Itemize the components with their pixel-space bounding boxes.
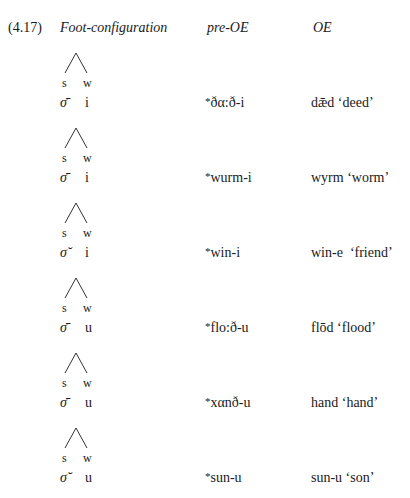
ending-vowel: i — [85, 96, 89, 110]
ending-vowel: u — [85, 321, 92, 335]
example-row-5: s w σ̄ u *xαnð-u hand ‘hand’ — [0, 352, 410, 427]
syllable-weight: σ̆ — [60, 246, 67, 260]
oe-form: flōd ‘flood’ — [311, 321, 376, 335]
example-row-6: s w σ̆ u *sun-u sun-u ‘son’ — [0, 427, 410, 498]
pre-oe-form: *flo:ð-u — [205, 321, 249, 335]
foot-tree-icon — [62, 52, 90, 74]
pre-oe-form: *win-i — [205, 246, 240, 260]
foot-tree-icon — [62, 127, 90, 149]
foot-tree-icon — [62, 427, 90, 449]
ending-vowel: u — [85, 396, 92, 410]
strong-label: s — [62, 377, 67, 389]
strong-label: s — [62, 302, 67, 314]
strong-label: s — [62, 152, 67, 164]
weak-label: w — [83, 302, 92, 314]
example-row-1: s w σ̄ i *ðα:ð-i dǣd ‘deed’ — [0, 52, 410, 127]
foot-tree-icon — [62, 202, 90, 224]
header-pre-oe: pre-OE — [207, 21, 248, 35]
ending-vowel: u — [85, 471, 92, 485]
ending-vowel: i — [85, 246, 89, 260]
pre-oe-form: *xαnð-u — [205, 396, 251, 410]
pre-oe-form: *wurm-i — [205, 171, 252, 185]
syllable-weight: σ̄ — [60, 171, 67, 185]
strong-label: s — [62, 77, 67, 89]
example-row-2: s w σ̄ i *wurm-i wyrm ‘worm’ — [0, 127, 410, 202]
weak-label: w — [83, 77, 92, 89]
foot-tree-icon — [62, 352, 90, 374]
strong-label: s — [62, 227, 67, 239]
example-row-4: s w σ̄ u *flo:ð-u flōd ‘flood’ — [0, 277, 410, 352]
ending-vowel: i — [85, 171, 89, 185]
weak-label: w — [83, 377, 92, 389]
weak-label: w — [83, 152, 92, 164]
example-row-3: s w σ̆ i *win-i win-e ‘friend’ — [0, 202, 410, 277]
pre-oe-form: *sun-u — [205, 471, 242, 485]
syllable-weight: σ̆ — [60, 471, 67, 485]
oe-form: win-e ‘friend’ — [311, 246, 393, 260]
oe-form: dǣd ‘deed’ — [311, 96, 374, 110]
oe-form: sun-u ‘son’ — [311, 471, 374, 485]
strong-label: s — [62, 452, 67, 464]
syllable-weight: σ̄ — [60, 321, 67, 335]
pre-oe-form: *ðα:ð-i — [205, 96, 244, 110]
header-oe: OE — [313, 21, 332, 35]
oe-form: wyrm ‘worm’ — [311, 171, 389, 185]
oe-form: hand ‘hand’ — [311, 396, 378, 410]
weak-label: w — [83, 227, 92, 239]
header-foot-configuration: Foot-configuration — [60, 21, 167, 35]
syllable-weight: σ̄ — [60, 396, 67, 410]
example-number: (4.17) — [8, 21, 42, 35]
syllable-weight: σ̄ — [60, 96, 67, 110]
foot-tree-icon — [62, 277, 90, 299]
weak-label: w — [83, 452, 92, 464]
